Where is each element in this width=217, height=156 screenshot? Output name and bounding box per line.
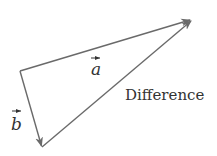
vector-diagram: a b Difference xyxy=(0,0,217,156)
vector-a-label: a xyxy=(91,59,101,79)
vector-b-line xyxy=(20,71,42,146)
difference-label: Difference xyxy=(125,86,204,104)
vector-a-label-group: a xyxy=(91,58,101,79)
vector-a-line xyxy=(20,20,190,71)
vector-b-label-group: b xyxy=(11,111,22,134)
difference-vector-line xyxy=(42,21,191,147)
vector-b-label: b xyxy=(11,114,22,134)
